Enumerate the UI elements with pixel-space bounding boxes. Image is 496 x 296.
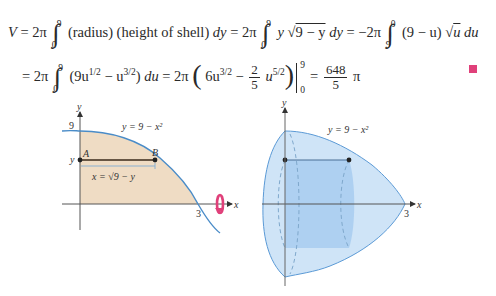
- shaded-region: [80, 131, 198, 204]
- right-curve-label: y = 9 − x²: [327, 124, 369, 135]
- right-tick-x-3: 3: [404, 208, 409, 219]
- tick-y-9: 9: [69, 120, 74, 131]
- tick-y-point: y: [69, 154, 75, 165]
- y-axis-label: y: [76, 101, 82, 112]
- point-b-label: B: [152, 147, 158, 158]
- x-axis-label: x: [233, 199, 239, 210]
- tick-x-3: 3: [196, 208, 201, 219]
- point-a-label: A: [82, 148, 90, 159]
- segment-length-label: x = √9 − y: [91, 171, 135, 182]
- right-x-axis-label: x: [416, 199, 422, 210]
- curve-label: y = 9 − x²: [121, 121, 163, 132]
- point-a: [78, 158, 83, 163]
- right-y-axis-label: y: [281, 97, 287, 108]
- figure-left-region: y x y = 9 − x² 9 A B y x = √9 − y 3 y x …: [0, 0, 496, 296]
- point-b: [153, 158, 158, 163]
- shell-point-right: [347, 158, 352, 163]
